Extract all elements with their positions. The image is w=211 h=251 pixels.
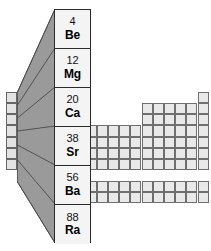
mini-table-cell	[119, 137, 130, 148]
mini-table-cell	[198, 159, 209, 170]
mini-table-fblock-cell	[119, 192, 130, 203]
mini-table-fblock-cell	[198, 181, 209, 192]
mini-table-cell	[175, 103, 186, 114]
mini-table-cell	[108, 137, 119, 148]
element-atomic-number: 4	[70, 16, 76, 28]
mini-table-fblock-cell	[175, 192, 186, 203]
periodic-table-diagram: 4Be12Mg20Ca38Sr56Ba88Ra	[0, 0, 211, 251]
mini-table-group2-cell	[6, 137, 17, 148]
element-atomic-number: 88	[67, 212, 79, 224]
mini-table-fblock-cell	[153, 192, 164, 203]
mini-table-cell	[186, 137, 197, 148]
mini-table-fblock-cell	[186, 192, 197, 203]
mini-table-cell	[130, 137, 141, 148]
mini-table-cell	[142, 114, 153, 125]
mini-table-fblock-cell	[153, 181, 164, 192]
element-symbol: Be	[65, 29, 80, 42]
mini-table-group2-cell	[6, 159, 17, 170]
magnified-group2-stack: 4Be12Mg20Ca38Sr56Ba88Ra	[54, 9, 91, 243]
mini-table-cell	[119, 125, 130, 136]
mini-table-cell	[164, 114, 175, 125]
mini-table-cell	[97, 137, 108, 148]
mini-table-cell	[108, 148, 119, 159]
mini-table-cell	[142, 125, 153, 136]
magnified-element-cell: 4Be	[55, 10, 90, 49]
mini-table-cell	[108, 125, 119, 136]
mini-table-fblock-cell	[97, 192, 108, 203]
mini-table-cell	[175, 114, 186, 125]
mini-table-group2-cell	[6, 148, 17, 159]
mini-table-group2-cell	[6, 125, 17, 136]
mini-table-cell	[186, 114, 197, 125]
mini-table-cell	[153, 137, 164, 148]
mini-table-cell	[175, 148, 186, 159]
mini-table-cell	[186, 159, 197, 170]
mini-table-cell	[198, 148, 209, 159]
mini-table-cell	[164, 159, 175, 170]
mini-table-cell	[153, 114, 164, 125]
mini-table-cell	[198, 137, 209, 148]
element-symbol: Mg	[64, 68, 81, 81]
mini-table-cell	[142, 159, 153, 170]
mini-table-cell	[175, 125, 186, 136]
mini-table-group2-cell	[6, 103, 17, 114]
mini-table-cell	[108, 159, 119, 170]
mini-table-cell	[164, 148, 175, 159]
mini-table-cell	[130, 125, 141, 136]
magnified-element-cell: 20Ca	[55, 88, 90, 127]
mini-table-cell	[97, 125, 108, 136]
element-atomic-number: 12	[67, 55, 79, 67]
element-atomic-number: 20	[67, 94, 79, 106]
mini-table-cell	[186, 125, 197, 136]
element-symbol: Sr	[66, 146, 78, 159]
mini-table-cell	[142, 137, 153, 148]
mini-periodic-table	[0, 88, 211, 251]
element-symbol: Ba	[65, 185, 80, 198]
mini-table-fblock-cell	[164, 181, 175, 192]
mini-table-cell	[142, 103, 153, 114]
mini-table-cell	[97, 159, 108, 170]
mini-table-fblock-cell	[108, 181, 119, 192]
mini-table-fblock-cell	[119, 181, 130, 192]
mini-table-fblock-cell	[142, 181, 153, 192]
mini-table-cell	[153, 148, 164, 159]
mini-table-cell	[97, 148, 108, 159]
mini-table-cell	[175, 159, 186, 170]
mini-table-fblock-cell	[164, 192, 175, 203]
mini-table-fblock-cell	[130, 181, 141, 192]
mini-table-cell	[119, 159, 130, 170]
element-atomic-number: 38	[67, 133, 79, 145]
mini-table-fblock-cell	[186, 181, 197, 192]
mini-table-cell	[130, 159, 141, 170]
mini-table-cell	[153, 159, 164, 170]
mini-table-cell	[130, 148, 141, 159]
mini-table-group2-cell	[6, 92, 17, 103]
mini-table-fblock-cell	[198, 192, 209, 203]
mini-table-fblock-cell	[108, 192, 119, 203]
mini-table-cell	[198, 114, 209, 125]
element-symbol: Ra	[65, 224, 80, 237]
mini-table-group2-cell	[6, 114, 17, 125]
mini-table-cell	[186, 103, 197, 114]
mini-table-cell	[142, 148, 153, 159]
mini-table-cell	[153, 125, 164, 136]
mini-table-cell	[119, 148, 130, 159]
mini-table-fblock-cell	[175, 181, 186, 192]
magnified-element-cell: 12Mg	[55, 49, 90, 88]
mini-table-cell	[153, 103, 164, 114]
mini-table-cell	[164, 103, 175, 114]
mini-table-cell	[198, 125, 209, 136]
element-symbol: Ca	[65, 107, 80, 120]
magnified-element-cell: 56Ba	[55, 166, 90, 205]
magnified-element-cell: 38Sr	[55, 127, 90, 166]
mini-table-cell	[186, 148, 197, 159]
mini-table-fblock-cell	[130, 192, 141, 203]
mini-table-fblock-cell	[142, 192, 153, 203]
mini-table-cell	[175, 137, 186, 148]
mini-table-cell	[198, 92, 209, 103]
mini-table-cell	[198, 103, 209, 114]
mini-table-cell	[164, 125, 175, 136]
element-atomic-number: 56	[67, 172, 79, 184]
mini-table-cell	[164, 137, 175, 148]
mini-table-fblock-cell	[97, 181, 108, 192]
